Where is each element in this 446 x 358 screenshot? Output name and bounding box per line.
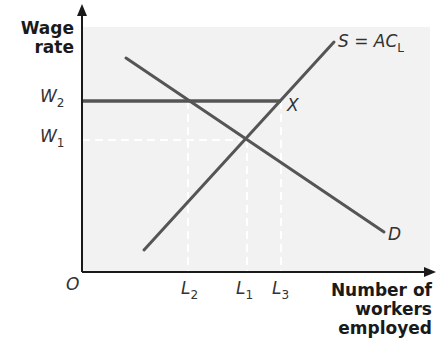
x-tick-l3: L3 [272, 278, 289, 298]
x-axis-title-line2: workers [320, 300, 432, 319]
y-axis-title: Wage rate [4, 19, 74, 57]
y-tick-w1: W1 [40, 126, 64, 146]
origin-label: O [66, 274, 79, 294]
x-axis-title-line3: employed [320, 319, 432, 338]
x-tick-l2: L2 [181, 278, 198, 298]
demand-curve-label: D [388, 224, 401, 244]
x-axis-title-line1: Number of [320, 281, 432, 300]
y-tick-w2: W2 [40, 86, 64, 106]
y-axis-arrow-icon [77, 4, 87, 16]
supply-curve-label: S = ACL [338, 31, 404, 51]
x-axis-title: Number of workers employed [320, 281, 432, 338]
y-axis-title-line2: rate [4, 38, 74, 57]
point-x-label: X [287, 95, 299, 115]
y-axis-title-line1: Wage [4, 19, 74, 38]
x-tick-l1: L1 [236, 278, 253, 298]
